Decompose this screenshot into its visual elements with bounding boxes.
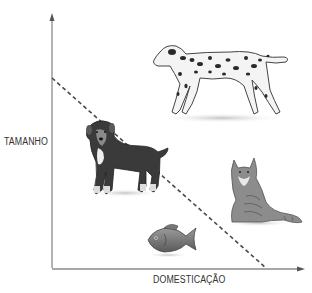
x-axis [52,267,305,272]
size-vs-domestication-diagram: TAMANHO DOMESTICAÇÃO [0,0,312,293]
fish-icon [146,224,196,257]
x-axis-arrow-icon [297,267,305,272]
cat-icon [224,158,302,227]
y-axis [50,13,55,268]
x-axis-label: DOMESTICAÇÃO [153,274,225,285]
y-axis-arrow-icon [50,13,55,21]
mixed-breed-dog-icon [86,121,168,197]
y-axis-label: TAMANHO [4,136,48,147]
dalmatian-icon [154,46,288,123]
